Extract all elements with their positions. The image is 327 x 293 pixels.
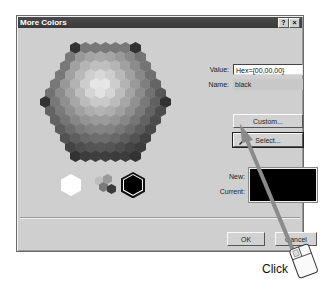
click-label: Click bbox=[262, 262, 288, 276]
cancel-button[interactable]: Cancel bbox=[275, 232, 317, 246]
dialog-title: More Colors bbox=[20, 17, 67, 28]
name-label: Name: bbox=[197, 81, 229, 88]
select-button-label: Select... bbox=[255, 137, 280, 144]
gray-hex-cell[interactable] bbox=[103, 174, 112, 184]
separator bbox=[20, 217, 300, 219]
gray-hex-cell[interactable] bbox=[107, 184, 116, 194]
value-label: Value: bbox=[197, 66, 229, 73]
help-button[interactable]: ? bbox=[278, 18, 289, 28]
title-bar[interactable]: More Colors ? × bbox=[18, 17, 302, 28]
gray-hex-cell[interactable] bbox=[61, 174, 81, 196]
current-label: Current: bbox=[207, 188, 245, 195]
new-label: New: bbox=[207, 173, 245, 180]
value-input[interactable]: Hex={00,00,00} bbox=[233, 64, 303, 75]
ok-button[interactable]: OK bbox=[227, 232, 265, 246]
eyedropper-icon bbox=[238, 136, 247, 145]
name-field: black bbox=[233, 79, 303, 90]
new-current-color-swatch bbox=[249, 168, 317, 202]
close-button[interactable]: × bbox=[289, 18, 300, 28]
more-colors-dialog: More Colors ? × Value: Hex={00,00,00} Na… bbox=[16, 15, 304, 252]
custom-button[interactable]: Custom... bbox=[233, 114, 303, 128]
select-button[interactable]: Select... bbox=[233, 133, 303, 147]
